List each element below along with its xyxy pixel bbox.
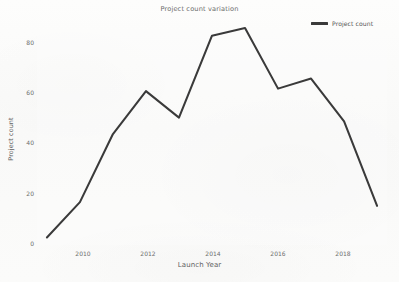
ytick-label-60: 60 bbox=[12, 89, 34, 96]
legend-entry-label: Project count bbox=[332, 20, 373, 27]
chart-screenshot: Project count variation 80 60 40 20 0 20… bbox=[0, 0, 399, 282]
ytick-label-0: 0 bbox=[12, 240, 34, 247]
plot-area bbox=[37, 18, 387, 245]
xtick-label-2014: 2014 bbox=[196, 250, 230, 257]
xtick-label-2016: 2016 bbox=[261, 250, 295, 257]
xtick-label-2018: 2018 bbox=[326, 250, 360, 257]
legend-line-swatch bbox=[311, 22, 328, 24]
y-axis-label: Project count bbox=[7, 104, 15, 174]
x-axis-label: Launch Year bbox=[0, 261, 399, 269]
ytick-label-20: 20 bbox=[12, 190, 34, 197]
xtick-label-2012: 2012 bbox=[131, 250, 165, 257]
ytick-label-80: 80 bbox=[12, 39, 34, 46]
chart-title: Project count variation bbox=[0, 5, 399, 13]
xtick-label-2010: 2010 bbox=[66, 250, 100, 257]
chart-legend: Project count bbox=[311, 20, 373, 27]
ytick-label-40: 40 bbox=[12, 139, 34, 146]
series-line-project-count bbox=[47, 28, 377, 237]
line-chart-svg bbox=[37, 18, 387, 245]
